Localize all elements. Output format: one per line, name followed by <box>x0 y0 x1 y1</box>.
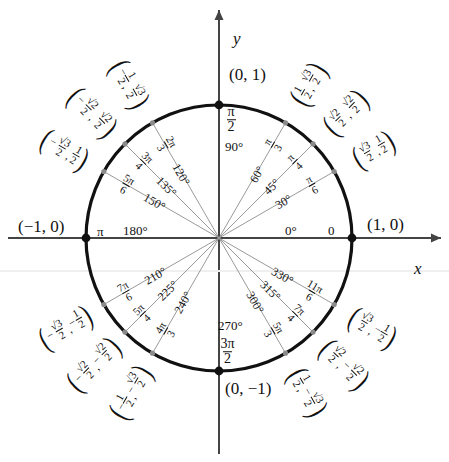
circle-point-315 <box>310 329 315 334</box>
circle-point-45 <box>310 141 315 146</box>
point-0-neg1: (0, −1) <box>225 380 271 397</box>
circle-point-90 <box>215 101 224 110</box>
circle-point-240 <box>150 351 155 356</box>
x-axis-label: x <box>414 260 422 277</box>
angle-label-180-radian: π <box>97 223 104 239</box>
point-neg1-0: (−1, 0) <box>18 218 64 235</box>
circle-point-150 <box>101 169 106 174</box>
circle-point-30 <box>332 169 337 174</box>
circle-point-120 <box>150 120 155 125</box>
angle-label-270-radian: 3π2 <box>219 337 236 367</box>
point-1-0: (1, 0) <box>367 216 404 233</box>
angle-label-90-degree: 90° <box>225 138 243 154</box>
circle-point-60 <box>283 120 288 125</box>
circle-point-225 <box>122 329 127 334</box>
angle-label-270-degree: 270° <box>218 317 243 333</box>
circle-point-330 <box>332 302 337 307</box>
unit-circle-diagram: (0, 1)(1, 0)(−1, 0)(0, −1)yx0°090°π2π180… <box>0 0 449 462</box>
point-0-1: (0, 1) <box>229 66 266 83</box>
circle-point-0 <box>348 234 357 243</box>
angle-label-90-radian: π2 <box>226 105 236 135</box>
circle-point-300 <box>283 351 288 356</box>
circle-point-135 <box>122 141 127 146</box>
circle-point-210 <box>101 302 106 307</box>
circle-point-270 <box>215 367 224 376</box>
angle-label-180-degree: 180° <box>123 222 148 238</box>
circle-point-180 <box>82 234 91 243</box>
angle-label-0-radian: 0 <box>328 222 335 238</box>
angle-label-0-degree: 0° <box>285 222 297 238</box>
y-axis-label: y <box>233 30 241 47</box>
